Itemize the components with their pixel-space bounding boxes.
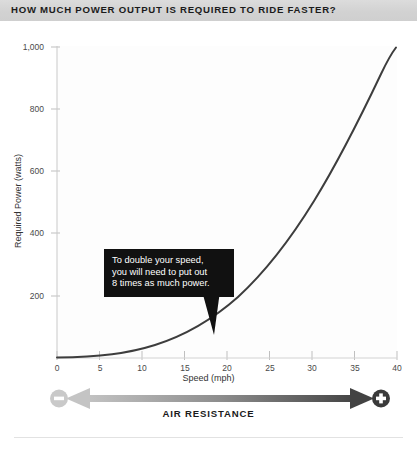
- page-title: HOW MUCH POWER OUTPUT IS REQUIRED TO RID…: [11, 4, 336, 15]
- x-tick-label-40: 40: [382, 363, 412, 373]
- footer-divider: [14, 437, 403, 438]
- y-tick-label-800: 800: [0, 104, 44, 114]
- x-tick-label-10: 10: [127, 363, 157, 373]
- annotation-line-1: To double your speed,: [112, 255, 227, 267]
- y-axis-title: Required Power (watts): [13, 131, 23, 271]
- x-tick-label-0: 0: [42, 363, 72, 373]
- callout-tail: [202, 291, 242, 351]
- x-tick-label-5: 5: [85, 363, 115, 373]
- x-tick-label-35: 35: [340, 363, 370, 373]
- air-resistance-scale: AIR RESISTANCE: [0, 381, 417, 436]
- chart-container: 1,000 800 600 400 200 0 5 10 15 20 25 30…: [0, 21, 417, 381]
- annotation-line-2: you will need to put out: [112, 267, 227, 279]
- double-headed-arrow-icon: [66, 388, 374, 409]
- x-tick-label-20: 20: [212, 363, 242, 373]
- y-tick-label-1000: 1,000: [0, 42, 44, 52]
- x-tick-label-15: 15: [170, 363, 200, 373]
- y-tick-label-200: 200: [0, 291, 44, 301]
- minus-circle-icon: [50, 390, 68, 408]
- air-resistance-label: AIR RESISTANCE: [0, 408, 417, 419]
- x-tick-label-25: 25: [255, 363, 285, 373]
- plus-circle-icon: [372, 390, 390, 408]
- x-tick-label-30: 30: [297, 363, 327, 373]
- annotation-line-3: 8 times as much power.: [112, 278, 227, 290]
- annotation-callout: To double your speed, you will need to p…: [104, 249, 234, 297]
